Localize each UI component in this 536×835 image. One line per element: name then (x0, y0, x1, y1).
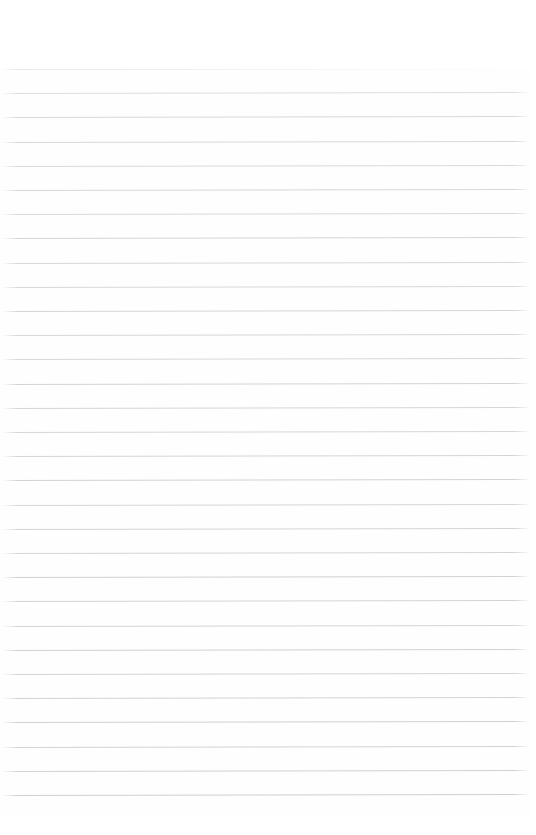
writing-lane (0, 480, 536, 504)
page-right-margin (531, 0, 536, 835)
writing-lane (0, 529, 536, 553)
writing-lane (0, 698, 536, 722)
writing-lane (0, 311, 536, 335)
writing-lane (0, 69, 536, 93)
writing-lane (0, 142, 536, 166)
writing-lane (0, 93, 536, 117)
writing-lane (0, 456, 536, 480)
writing-lane (0, 795, 536, 819)
scanned-page (0, 0, 536, 835)
writing-lane (0, 166, 536, 190)
writing-lane (0, 408, 536, 432)
writing-lane (0, 359, 536, 383)
writing-lane (0, 214, 536, 238)
writing-lane (0, 674, 536, 698)
ruled-lines-group (0, 0, 536, 835)
writing-lane (0, 626, 536, 650)
writing-lane (0, 287, 536, 311)
writing-lane (0, 747, 536, 771)
page-bottom-margin (0, 817, 536, 835)
writing-lane (0, 650, 536, 674)
writing-lane (0, 577, 536, 601)
writing-lane (0, 505, 536, 529)
writing-lane (0, 553, 536, 577)
writing-lane (0, 432, 536, 456)
writing-lane (0, 263, 536, 287)
writing-lane (0, 117, 536, 141)
writing-lane (0, 601, 536, 625)
writing-lane (0, 384, 536, 408)
writing-lane (0, 771, 536, 795)
writing-lane (0, 335, 536, 359)
writing-lane (0, 722, 536, 746)
writing-lane (0, 238, 536, 262)
writing-lane (0, 190, 536, 214)
page-top-margin (0, 0, 536, 69)
